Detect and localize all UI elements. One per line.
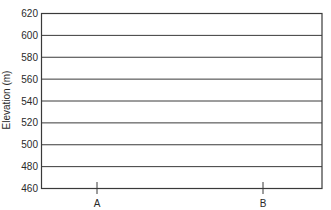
y-tick-label-540: 540 bbox=[21, 96, 38, 107]
x-markers: A B bbox=[94, 182, 267, 209]
y-tick-label-620: 620 bbox=[21, 8, 38, 19]
gridlines bbox=[42, 14, 323, 189]
elevation-profile-chart: 460480500520540560580600620 A B Elevatio… bbox=[0, 0, 331, 210]
marker-b-label: B bbox=[260, 198, 267, 209]
y-tick-label-500: 500 bbox=[21, 139, 38, 150]
y-tick-label-480: 480 bbox=[21, 161, 38, 172]
y-axis-label: Elevation (m) bbox=[1, 71, 12, 130]
y-tick-labels: 460480500520540560580600620 bbox=[21, 8, 38, 194]
y-tick-label-560: 560 bbox=[21, 74, 38, 85]
y-tick-label-520: 520 bbox=[21, 117, 38, 128]
y-tick-label-580: 580 bbox=[21, 52, 38, 63]
y-tick-label-600: 600 bbox=[21, 30, 38, 41]
y-tick-label-460: 460 bbox=[21, 183, 38, 194]
marker-a-label: A bbox=[94, 198, 101, 209]
